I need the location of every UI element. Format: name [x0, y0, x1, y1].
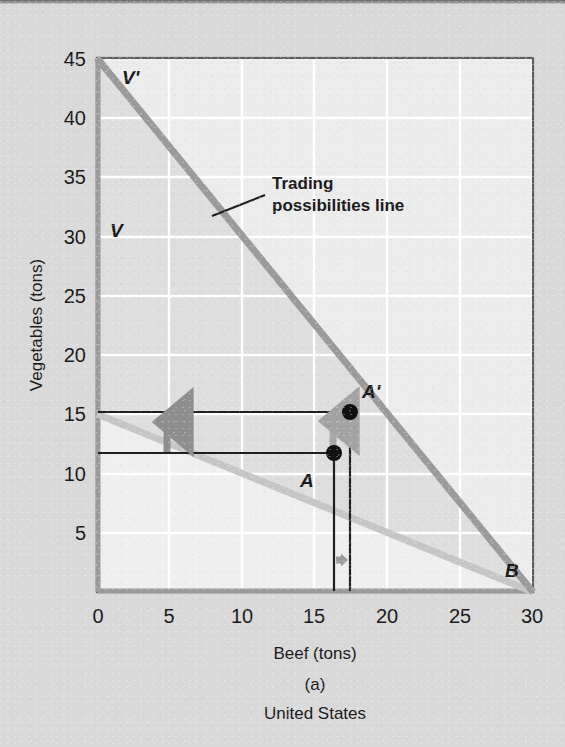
- x-tick-15: 15: [303, 605, 325, 627]
- trading-line-callout-line1: Trading: [272, 174, 333, 193]
- chart-svg: Trading possibilities line V' V B A A' 4…: [0, 0, 565, 747]
- y-tick-labels: 45 40 35 30 25 20 15 10 5: [64, 48, 86, 544]
- label-point-b: B: [505, 560, 519, 581]
- y-tick-35: 35: [64, 166, 86, 188]
- data-point-a-prime: [342, 404, 358, 420]
- y-axis-title: Vegetables (tons): [27, 259, 46, 391]
- y-tick-25: 25: [64, 285, 86, 307]
- y-tick-40: 40: [64, 107, 86, 129]
- x-axis-title: Beef (tons): [273, 644, 356, 663]
- label-v: V: [110, 220, 124, 241]
- panel-title: United States: [264, 704, 366, 723]
- y-tick-15: 15: [64, 403, 86, 425]
- y-tick-10: 10: [64, 463, 86, 485]
- x-tick-10: 10: [231, 605, 253, 627]
- trading-line-callout-line2: possibilities line: [272, 196, 404, 215]
- x-tick-30: 30: [521, 605, 543, 627]
- data-point-a: [326, 445, 342, 461]
- label-point-a-prime: A': [361, 381, 382, 402]
- label-point-a: A: [299, 470, 314, 491]
- figure-panel: Trading possibilities line V' V B A A' 4…: [0, 0, 565, 747]
- x-tick-20: 20: [376, 605, 398, 627]
- y-tick-45: 45: [64, 48, 86, 70]
- x-tick-25: 25: [449, 605, 471, 627]
- label-v-prime: V': [122, 67, 141, 88]
- x-tick-labels: 0 5 10 15 20 25 30: [92, 605, 543, 627]
- y-tick-30: 30: [64, 226, 86, 248]
- x-tick-5: 5: [163, 605, 174, 627]
- y-tick-5: 5: [75, 522, 86, 544]
- panel-letter: (a): [305, 675, 326, 694]
- y-tick-20: 20: [64, 344, 86, 366]
- x-tick-0: 0: [92, 605, 103, 627]
